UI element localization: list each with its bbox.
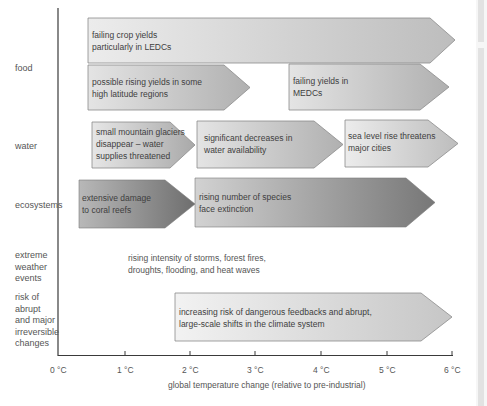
row-label-food: food [15,63,33,75]
arrow-text-eco-coral-reefs: extensive damage to coral reefs [82,192,151,216]
label-line: events [15,273,48,285]
label-line: risk of [15,292,59,304]
text-line: possible rising yields in some [92,76,202,88]
row-label-ecosystems: ecosystems [15,200,63,212]
x-axis-title: global temperature change (relative to p… [168,380,366,390]
text-line: to coral reefs [82,204,151,216]
row-label-extreme-weather: extreme weather events [15,250,48,285]
arrow-text-food-failing-yields-medcs: failing yields in MEDCs [293,75,348,99]
arrow-text-water-decreases: significant decreases in water availabil… [204,132,292,156]
x-tick-2: 2 °C [182,365,199,375]
label-line: changes [15,338,59,350]
label-line: abrupt [15,304,59,316]
row-label-abrupt-changes: risk of abrupt and major irreversible ch… [15,292,59,350]
label-line: weather [15,262,48,274]
x-tick-0: 0 °C [50,365,67,375]
text-line: droughts, flooding, and heat waves [128,264,266,276]
text-line: face extinction [199,203,291,215]
text-line: failing yields in [293,75,348,87]
text-line: MEDCs [293,87,348,99]
text-line: high latitude regions [92,88,202,100]
text-line: failing crop yields [92,29,171,41]
x-tick-5: 5 °C [379,365,396,375]
text-line: small mountain glaciers [96,126,185,138]
text-line: supplies threatened [96,150,185,162]
label-line: extreme [15,250,48,262]
arrow-text-eco-species-extinction: rising number of species face extinction [199,191,291,215]
x-tick-1: 1 °C [117,365,134,375]
text-line: major cities [348,142,435,154]
text-line: extensive damage [82,192,151,204]
extreme-weather-text: rising intensity of storms, forest fires… [128,252,266,276]
text-line: water availability [204,144,292,156]
x-tick-3: 3 °C [247,365,264,375]
text-line: increasing risk of dangerous feedbacks a… [179,306,372,318]
text-line: rising number of species [199,191,291,203]
text-line: particularly in LEDCs [92,41,171,53]
arrow-text-food-rising-yields: possible rising yields in some high lati… [92,76,202,100]
x-tick-6: 6 °C [444,365,461,375]
arrow-text-water-glaciers: small mountain glaciers disappear – wate… [96,126,185,162]
text-line: rising intensity of storms, forest fires… [128,252,266,264]
text-line: sea level rise threatens [348,130,435,142]
label-line: and major [15,315,59,327]
arrow-text-food-failing-crop-yields: failing crop yields particularly in LEDC… [92,29,171,53]
arrow-text-abrupt-changes: increasing risk of dangerous feedbacks a… [179,306,372,330]
text-line: disappear – water [96,138,185,150]
arrow-text-water-sea-level: sea level rise threatens major cities [348,130,435,154]
row-label-water: water [15,141,37,153]
label-line: irreversible [15,327,59,339]
text-line: significant decreases in [204,132,292,144]
text-line: large-scale shifts in the climate system [179,318,372,330]
x-tick-4: 4 °C [313,365,330,375]
